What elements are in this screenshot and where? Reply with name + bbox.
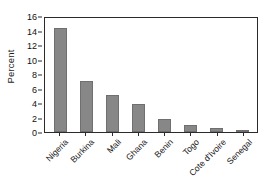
y-tick-label: 16 (27, 12, 37, 22)
y-tick-mark (38, 17, 42, 18)
y-axis-title: Percent (2, 0, 18, 133)
bar-slot (125, 18, 151, 132)
bar-slot (99, 18, 125, 132)
bar (132, 104, 145, 132)
bar-slot (229, 18, 255, 132)
bar (106, 95, 119, 132)
x-tick-label: Senegal (225, 137, 254, 166)
bar-slot (47, 18, 73, 132)
y-axis-tick-labels: 0246810121416 (18, 0, 40, 195)
x-tick-label: Benin (153, 137, 176, 160)
y-tick-mark (38, 31, 42, 32)
y-tick-label: 6 (32, 85, 37, 95)
y-tick-label: 8 (32, 70, 37, 80)
y-axis-title-text: Percent (5, 49, 16, 83)
y-tick-mark (38, 89, 42, 90)
bar-slot (177, 18, 203, 132)
bar (236, 130, 249, 132)
bar (80, 81, 93, 132)
plot-area (44, 17, 258, 133)
bar-chart-figure: Percent 0246810121416 NigeriaBurkinaMali… (0, 0, 268, 195)
bar (210, 128, 223, 132)
bar-slot (151, 18, 177, 132)
bar-slot (203, 18, 229, 132)
bar-slot (73, 18, 99, 132)
x-tick-label: Mali (104, 137, 122, 155)
bar-series (45, 18, 257, 132)
y-tick-mark (38, 75, 42, 76)
y-tick-mark (38, 46, 42, 47)
x-tick-label: Togo (181, 137, 201, 157)
bar (54, 28, 67, 132)
bar (158, 119, 171, 132)
x-axis-tick-labels: NigeriaBurkinaMaliGhanaBeninTogoCote d'I… (44, 133, 258, 195)
y-tick-label: 10 (27, 56, 37, 66)
x-tick-label: Ghana (124, 137, 149, 162)
y-tick-mark (38, 118, 42, 119)
y-tick-label: 14 (27, 27, 37, 37)
y-tick-mark (38, 60, 42, 61)
x-tick-label: Burkina (69, 137, 97, 165)
y-tick-label: 2 (32, 114, 37, 124)
y-tick-label: 4 (32, 99, 37, 109)
y-tick-label: 12 (27, 41, 37, 51)
x-tick-label: Nigeria (44, 137, 70, 163)
y-tick-mark (38, 133, 42, 134)
bar (184, 125, 197, 132)
y-tick-mark (38, 104, 42, 105)
y-tick-label: 0 (32, 128, 37, 138)
